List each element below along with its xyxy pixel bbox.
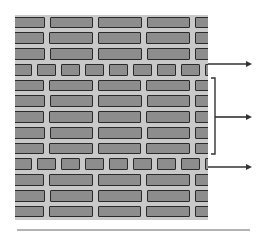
bracket-stretcher-courses [211, 78, 252, 154]
arrow-header-course-bottom [208, 164, 252, 170]
arrow-header-course-top [208, 61, 252, 67]
annotation-layer [0, 0, 271, 238]
